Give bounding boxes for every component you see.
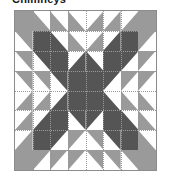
quilt-cell-r4-c4 (68, 71, 86, 91)
quilt-cell-r1-c5 (86, 11, 104, 31)
quilt-cell-r5-c1 (15, 91, 33, 111)
quilt-cell-r6-c1 (15, 110, 33, 130)
quilt-cell-r1-c4 (68, 11, 86, 31)
quilt-cell-r2-c6 (103, 31, 121, 51)
quilt-cell-r4-c1 (15, 71, 33, 91)
quilt-cell-r8-c5 (86, 150, 104, 170)
quilt-cell-r4-c7 (121, 71, 139, 91)
page-title-text: Chimneys (12, 0, 66, 5)
quilt-cell-r7-c3 (50, 130, 68, 150)
quilt-cell-r7-c5 (86, 130, 104, 150)
quilt-cell-r5-c4 (68, 91, 86, 111)
quilt-cell-r2-c7 (121, 31, 139, 51)
quilt-cell-r4-c6 (103, 71, 121, 91)
quilt-cell-r5-c8 (138, 91, 156, 111)
quilt-cell-r3-c5 (86, 51, 104, 71)
quilt-cell-r2-c4 (68, 31, 86, 51)
quilt-cell-r1-c1 (15, 11, 33, 31)
quilt-cell-r4-c2 (33, 71, 51, 91)
quilt-block-diagram (14, 10, 157, 171)
quilt-cell-r6-c5 (86, 110, 104, 130)
quilt-cell-r5-c7 (121, 91, 139, 111)
quilt-cell-r8-c1 (15, 150, 33, 170)
quilt-cell-r6-c2 (33, 110, 51, 130)
quilt-cell-r8-c8 (138, 150, 156, 170)
quilt-cell-r1-c2 (33, 11, 51, 31)
quilt-cell-r7-c6 (103, 130, 121, 150)
quilt-cell-r6-c7 (121, 110, 139, 130)
quilt-cell-r3-c2 (33, 51, 51, 71)
quilt-cell-r3-c6 (103, 51, 121, 71)
quilt-cell-r8-c2 (33, 150, 51, 170)
quilt-cell-r4-c8 (138, 71, 156, 91)
quilt-cell-r5-c3 (50, 91, 68, 111)
quilt-cell-r8-c6 (103, 150, 121, 170)
quilt-cell-r6-c6 (103, 110, 121, 130)
quilt-cell-r3-c4 (68, 51, 86, 71)
quilt-cell-r7-c2 (33, 130, 51, 150)
quilt-cell-r4-c5 (86, 71, 104, 91)
quilt-cell-r2-c3 (50, 31, 68, 51)
quilt-cell-r1-c7 (121, 11, 139, 31)
quilt-cell-layer (15, 11, 156, 170)
quilt-cell-r3-c7 (121, 51, 139, 71)
quilt-cell-r5-c2 (33, 91, 51, 111)
quilt-cell-r3-c3 (50, 51, 68, 71)
quilt-cell-r8-c4 (68, 150, 86, 170)
quilt-cell-r7-c4 (68, 130, 86, 150)
quilt-cell-r6-c3 (50, 110, 68, 130)
quilt-cell-r7-c7 (121, 130, 139, 150)
quilt-cell-r2-c8 (138, 31, 156, 51)
quilt-cell-r7-c8 (138, 130, 156, 150)
quilt-cell-r4-c3 (50, 71, 68, 91)
quilt-cell-r1-c6 (103, 11, 121, 31)
quilt-cell-r1-c8 (138, 11, 156, 31)
quilt-cell-r6-c4 (68, 110, 86, 130)
quilt-cell-r3-c8 (138, 51, 156, 71)
quilt-cell-r8-c7 (121, 150, 139, 170)
page-title: Chimneys (12, 0, 162, 6)
quilt-cell-r8-c3 (50, 150, 68, 170)
quilt-cell-r7-c1 (15, 130, 33, 150)
quilt-cell-r6-c8 (138, 110, 156, 130)
quilt-cell-r5-c6 (103, 91, 121, 111)
quilt-cell-r3-c1 (15, 51, 33, 71)
quilt-cell-r1-c3 (50, 11, 68, 31)
quilt-cell-r2-c1 (15, 31, 33, 51)
quilt-cell-r2-c2 (33, 31, 51, 51)
quilt-cell-r2-c5 (86, 31, 104, 51)
quilt-cell-r5-c5 (86, 91, 104, 111)
